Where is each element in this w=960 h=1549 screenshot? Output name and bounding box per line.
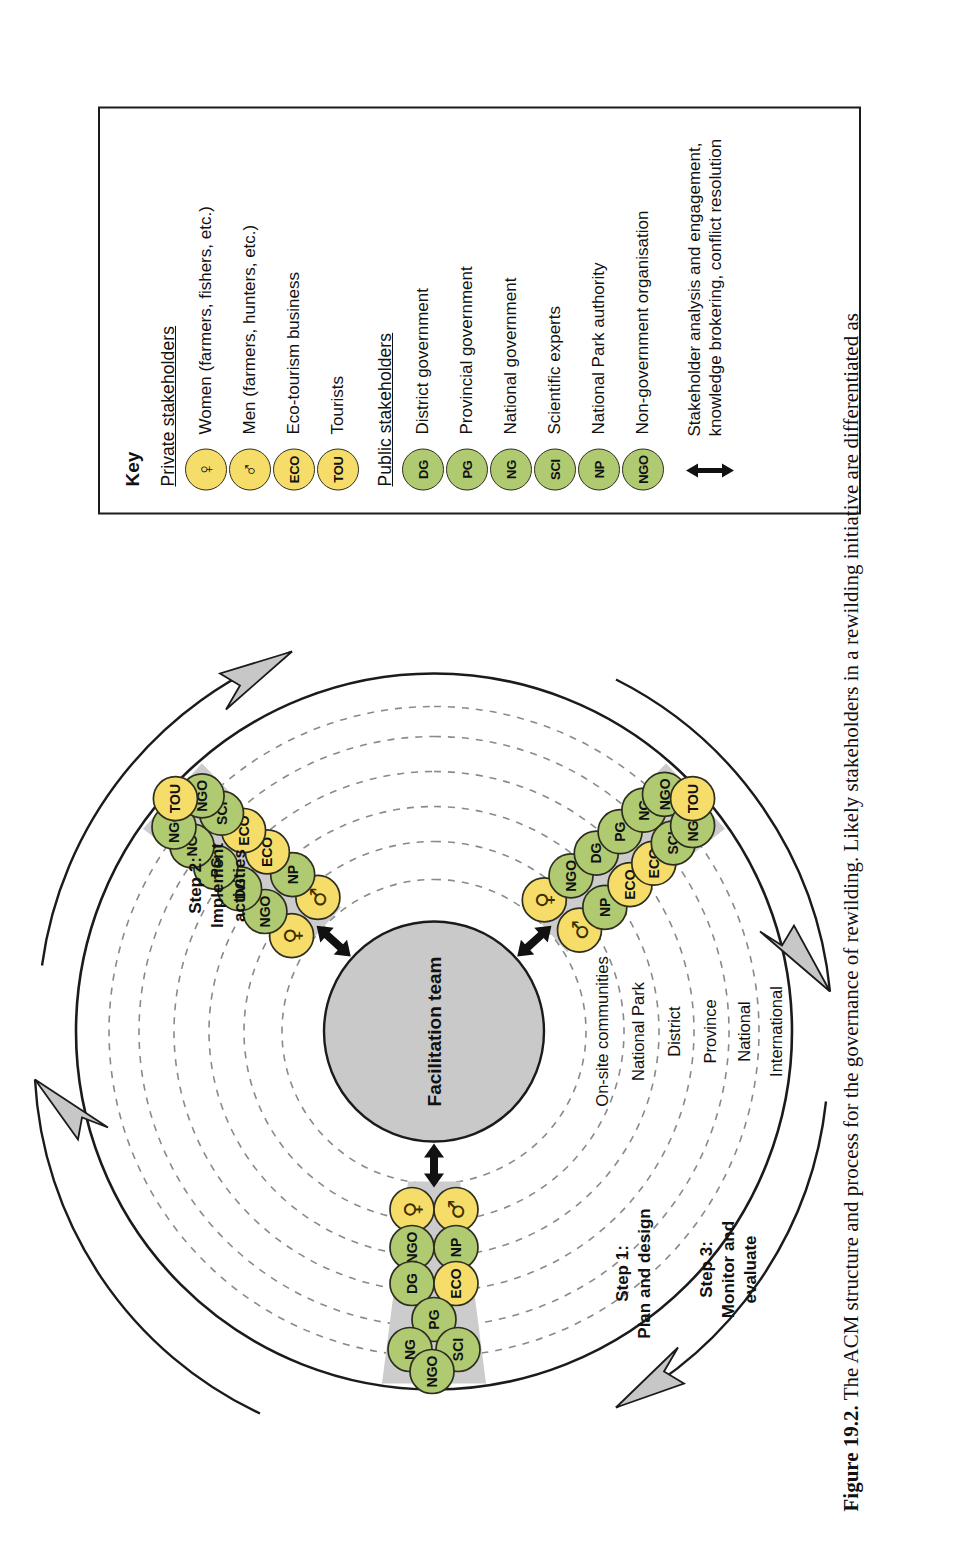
acm-cycle-diagram: On-site communities National Park Distri…	[24, 531, 844, 1531]
stakeholder-node-label: ♀	[280, 927, 305, 943]
stakeholder-node-label: TOU	[167, 783, 183, 812]
figure-page: On-site communities National Park Distri…	[0, 0, 960, 1549]
stakeholder-node-tou: TOU	[671, 776, 715, 820]
stakeholder-node-label: ♂	[444, 1199, 469, 1219]
key-row-eco: ECO Eco-tourism business	[273, 128, 315, 490]
stakeholder-node-label: PG	[612, 821, 628, 841]
key-title: Key	[122, 128, 144, 486]
key-section-private: Private stakeholders ♀ Women (farmers, f…	[158, 128, 359, 490]
step-2-label-line2: Implement	[208, 842, 227, 927]
key-row-ng: NG National government	[490, 128, 532, 490]
step-3-label-line2: Monitor and	[719, 1220, 738, 1317]
ring-label-national: National	[735, 1001, 753, 1062]
stakeholder-node-label: ECO	[448, 1268, 464, 1298]
stakeholder-node-label: DG	[404, 1272, 420, 1293]
stakeholder-node-label: SCI	[450, 1337, 466, 1360]
figure-caption-text: The ACM structure and process for the go…	[839, 313, 863, 1400]
key-label-dg: District government	[413, 288, 433, 434]
key-label-ng: National government	[501, 277, 521, 434]
stakeholder-node-label: ♂	[306, 887, 331, 907]
key-row-men: ♂ Men (farmers, hunters, etc.)	[229, 128, 271, 490]
key-row-np: NP National Park authority	[578, 128, 620, 490]
outer-arrowhead-left	[616, 1347, 684, 1407]
ring-label-national-park: National Park	[629, 981, 647, 1081]
pg-chip-icon: PG	[446, 448, 488, 490]
outer-arrowhead-top-left	[35, 1079, 108, 1139]
key-heading-private: Private stakeholders	[158, 128, 179, 486]
figure-caption: Figure 19.2. The ACM structure and proce…	[838, 41, 865, 1511]
key-row-tou: TOU Tourists	[317, 128, 359, 490]
key-row-pg: PG Provincial government	[446, 128, 488, 490]
ring-label-on-site-communities: On-site communities	[593, 956, 611, 1106]
stakeholder-node-label: NGO	[657, 778, 673, 810]
stakeholder-node-label: NP	[285, 864, 301, 883]
step-2-label-line3: activities	[230, 849, 249, 922]
ring-label-international: International	[767, 986, 785, 1077]
outer-arrowhead-right	[220, 651, 292, 709]
male-symbol-icon: ♂	[229, 448, 271, 490]
stakeholder-node-label: NP	[448, 1237, 464, 1256]
key-section-public: Public stakeholders DG District governme…	[375, 128, 664, 490]
stakeholder-node-♂: ♂	[434, 1187, 478, 1231]
double-headed-arrow-icon	[684, 450, 736, 490]
sci-chip-icon: SCI	[534, 448, 576, 490]
dg-chip-icon: DG	[402, 448, 444, 490]
stakeholder-node-label: NGO	[424, 1355, 440, 1387]
stakeholder-node-label: NGO	[404, 1231, 420, 1263]
key-note-label: Stakeholder analysis and engagement, kno…	[684, 136, 726, 436]
key-legend-box: Key Private stakeholders ♀ Women (farmer…	[98, 106, 861, 514]
ring-label-district: District	[665, 1005, 683, 1056]
key-row-dg: DG District government	[402, 128, 444, 490]
key-label-sci: Scientific experts	[545, 306, 565, 435]
arrow-hub-to-step-1	[424, 1143, 444, 1187]
key-row-women: ♀ Women (farmers, fishers, etc.)	[185, 128, 227, 490]
key-heading-public: Public stakeholders	[375, 128, 396, 486]
key-label-men: Men (farmers, hunters, etc.)	[240, 224, 260, 434]
stakeholder-node-label: PG	[426, 1309, 442, 1329]
eco-chip-icon: ECO	[273, 448, 315, 490]
female-symbol-icon: ♀	[185, 448, 227, 490]
key-label-women: Women (farmers, fishers, etc.)	[196, 206, 216, 434]
stakeholder-node-label: ♀	[400, 1201, 425, 1217]
key-row-note: Stakeholder analysis and engagement, kno…	[684, 128, 736, 490]
key-label-eco: Eco-tourism business	[284, 271, 304, 434]
stakeholder-node-label: NP	[597, 897, 613, 916]
ring-label-province: Province	[701, 999, 719, 1063]
key-label-tou: Tourists	[328, 375, 348, 434]
step-3-label-line1: Step 3:	[697, 1241, 716, 1298]
ng-chip-icon: NG	[490, 448, 532, 490]
facilitation-team-label: Facilitation team	[424, 956, 445, 1106]
figure-number: Figure 19.2.	[839, 1405, 863, 1511]
stakeholder-node-label: TOU	[685, 783, 701, 812]
key-row-sci: SCI Scientific experts	[534, 128, 576, 490]
key-label-np: National Park authority	[589, 262, 609, 434]
ngo-chip-icon: NGO	[622, 448, 664, 490]
stakeholder-node-ngo: NGO	[410, 1349, 454, 1393]
key-label-ngo: Non-government organisation	[633, 210, 653, 434]
tou-chip-icon: TOU	[317, 448, 359, 490]
step-2-label-line1: Step 2:	[186, 857, 205, 914]
np-chip-icon: NP	[578, 448, 620, 490]
key-label-pg: Provincial government	[457, 266, 477, 434]
stakeholder-node-label: ♀	[532, 891, 557, 907]
stakeholder-node-tou: TOU	[153, 776, 197, 820]
stakeholder-node-♀: ♀	[390, 1187, 434, 1231]
step-1-label-line1: Step 1:	[613, 1245, 632, 1302]
key-row-ngo: NGO Non-government organisation	[622, 128, 664, 490]
step-1-label-line2: Plan and design	[635, 1208, 654, 1338]
